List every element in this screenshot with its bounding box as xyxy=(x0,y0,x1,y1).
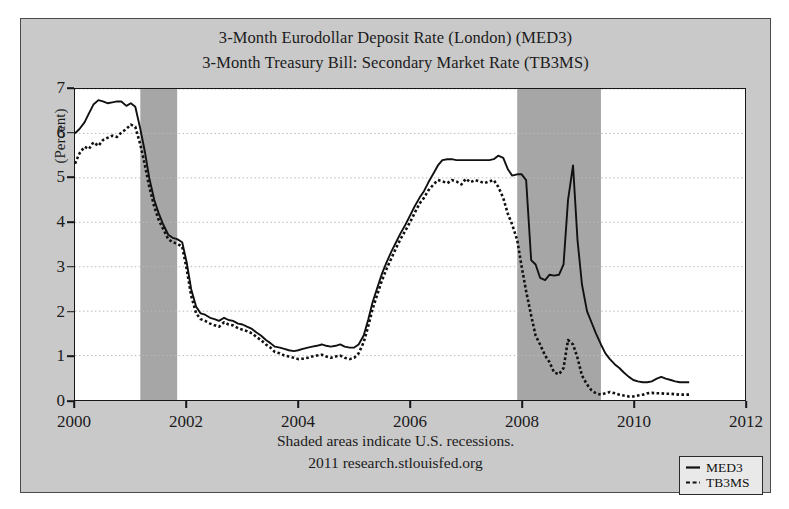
chart-legend: MED3TB3MS xyxy=(679,456,763,495)
y-tick-mark xyxy=(67,266,74,268)
x-tick-mark xyxy=(633,401,635,408)
x-tick-label: 2008 xyxy=(505,412,539,432)
y-tick-label: 5 xyxy=(57,167,66,187)
y-tick-label: 7 xyxy=(57,78,66,98)
footnote-recessions: Shaded areas indicate U.S. recessions. xyxy=(21,430,770,452)
title-line-1: 3-Month Eurodollar Deposit Rate (London)… xyxy=(21,25,770,50)
legend-label: TB3MS xyxy=(706,475,750,490)
y-tick-label: 0 xyxy=(57,391,66,411)
chart-title: 3-Month Eurodollar Deposit Rate (London)… xyxy=(21,25,770,75)
y-tick-mark xyxy=(67,87,74,89)
legend-swatch-dashed-icon xyxy=(685,478,701,487)
x-tick-label: 2000 xyxy=(57,412,91,432)
legend-label: MED3 xyxy=(706,460,743,475)
x-tick-mark xyxy=(409,401,411,408)
title-line-2: 3-Month Treasury Bill: Secondary Market … xyxy=(21,50,770,75)
y-tick-label: 2 xyxy=(57,301,66,321)
legend-swatch-solid-icon xyxy=(685,463,701,472)
chart-figure: 3-Month Eurodollar Deposit Rate (London)… xyxy=(20,18,771,493)
legend-item-med3: MED3 xyxy=(685,460,757,475)
x-tick-mark xyxy=(185,401,187,408)
chart-svg xyxy=(75,89,745,400)
recession-band xyxy=(140,89,177,400)
legend-item-tb3ms: TB3MS xyxy=(685,475,757,490)
x-tick-mark xyxy=(745,401,747,408)
y-tick-label: 1 xyxy=(57,346,66,366)
x-tick-mark xyxy=(521,401,523,408)
x-tick-label: 2012 xyxy=(729,412,763,432)
x-tick-mark xyxy=(297,401,299,408)
plot-area xyxy=(74,88,746,401)
x-tick-label: 2010 xyxy=(617,412,651,432)
x-tick-label: 2006 xyxy=(393,412,427,432)
y-tick-label: 6 xyxy=(57,122,66,142)
chart-footnotes: Shaded areas indicate U.S. recessions. 2… xyxy=(21,430,770,474)
y-tick-mark xyxy=(67,132,74,134)
plot-wrapper: (Percent) 012345672000200220042006200820… xyxy=(74,88,746,401)
x-tick-mark xyxy=(73,401,75,408)
y-tick-mark xyxy=(67,311,74,313)
x-tick-label: 2004 xyxy=(281,412,315,432)
y-tick-label: 3 xyxy=(57,256,66,276)
y-tick-mark xyxy=(67,355,74,357)
y-tick-mark xyxy=(67,221,74,223)
y-tick-label: 4 xyxy=(57,212,66,232)
y-tick-mark xyxy=(67,177,74,179)
footnote-source: 2011 research.stlouisfed.org xyxy=(21,452,770,474)
x-tick-label: 2002 xyxy=(169,412,203,432)
